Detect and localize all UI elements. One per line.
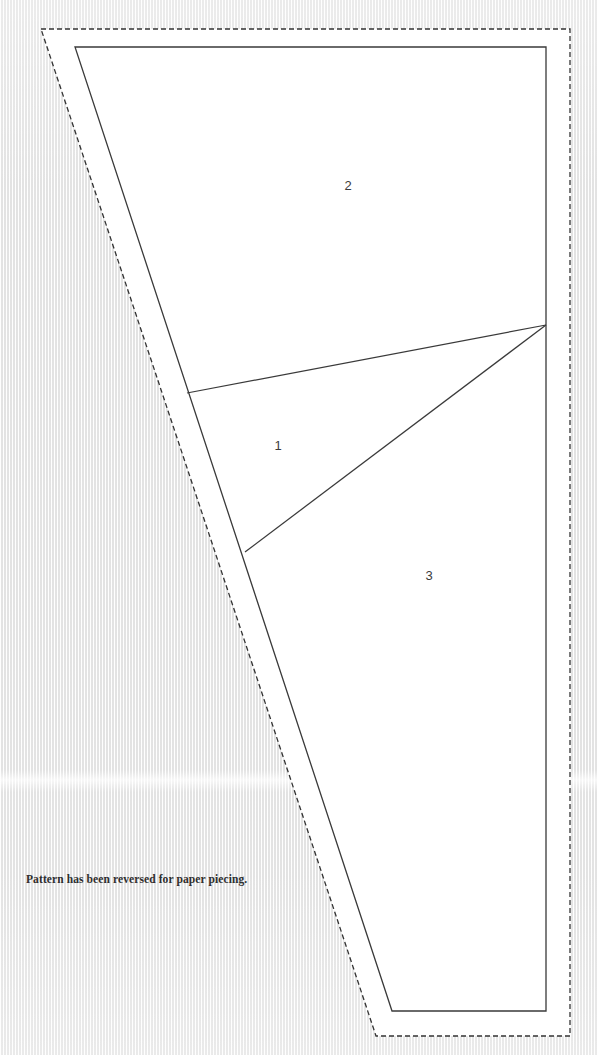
piece-number-3: 3 <box>425 568 432 583</box>
piece-number-2: 2 <box>344 178 351 193</box>
reversed-pattern-note: Pattern has been reversed for paper piec… <box>26 873 247 885</box>
piece-number-1: 1 <box>274 438 281 453</box>
paper-piecing-pattern: 2 1 3 <box>0 0 597 1055</box>
